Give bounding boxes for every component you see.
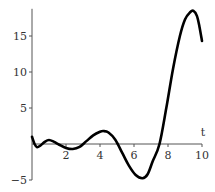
y-tick-label: 15 <box>13 30 27 43</box>
y-tick-label: −5 <box>11 174 27 187</box>
x-ticks: 246810 <box>63 144 210 162</box>
series-line-curve <box>32 11 202 179</box>
y-tick-label: 5 <box>20 102 27 115</box>
y-tick-label: 10 <box>13 66 27 79</box>
x-axis-label: t <box>201 126 206 139</box>
axes <box>32 9 202 180</box>
line-chart: 246810 −551015 t <box>0 0 215 192</box>
y-ticks: −551015 <box>11 30 32 187</box>
x-tick-label: 10 <box>195 149 209 162</box>
x-tick-label: 6 <box>131 149 138 162</box>
series-group <box>32 11 202 179</box>
x-tick-label: 4 <box>97 149 104 162</box>
x-tick-label: 2 <box>63 149 70 162</box>
x-tick-label: 8 <box>165 149 172 162</box>
